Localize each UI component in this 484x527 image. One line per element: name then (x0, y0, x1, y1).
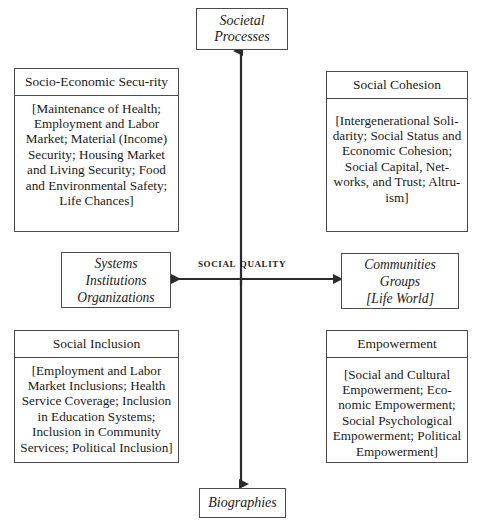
quadrant-title-empowerment: Empowerment (327, 331, 467, 358)
quadrant-title-social-cohesion: Social Cohesion (327, 72, 467, 99)
pole-top-label: Societal Processes (197, 13, 287, 45)
axis-right-line-3: [Life World] (366, 290, 434, 307)
pole-box-top: Societal Processes (196, 8, 288, 50)
quadrant-title-social-inclusion: Social Inclusion (15, 331, 178, 358)
social-quality-diagram: Societal Processes Socio-Economic Secu-­… (0, 0, 484, 527)
quadrant-items-socio-economic-security: [Maintenance of Health; Employment and L… (15, 96, 178, 214)
center-label-social-quality: Social Quality (0, 256, 484, 271)
quadrant-socio-economic-security: Socio-Economic Secu-­rity [Maintenance o… (14, 68, 179, 232)
axis-left-line-2: Institutions (85, 272, 146, 289)
quadrant-items-empowerment: [Social and Cultural Empowerment; Eco­no… (327, 358, 467, 464)
quadrant-title-socio-economic-security: Socio-Economic Secu-­rity (15, 69, 178, 96)
pole-bottom-label: Biographies (208, 495, 276, 511)
axis-right-line-2: Groups (380, 273, 420, 290)
pole-box-bottom: Biographies (199, 488, 286, 518)
quadrant-items-social-cohesion: [Intergenerational Soli­darity; Social S… (327, 99, 467, 210)
center-label-text: Social Quality (198, 256, 286, 270)
quadrant-social-inclusion: Social Inclusion [Employment and Labor M… (14, 330, 179, 463)
quadrant-items-social-inclusion: [Employment and Labor Market Inclusions;… (15, 358, 178, 460)
quadrant-social-cohesion: Social Cohesion [Intergenerational Soli­… (326, 71, 468, 232)
quadrant-empowerment: Empowerment [Social and Cultural Empower… (326, 330, 468, 463)
axis-left-line-3: Organizations (77, 289, 154, 306)
